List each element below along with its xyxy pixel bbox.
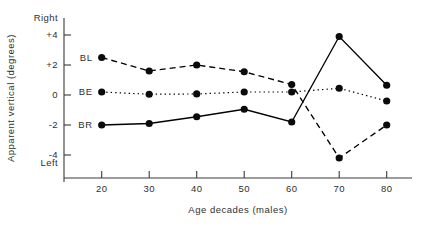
y-tick-label: 0 xyxy=(52,89,58,100)
data-point-br xyxy=(241,106,248,113)
data-point-bl xyxy=(193,61,200,68)
chart-plot-area: +4+20-2-4 20304050607080 Right Left Age … xyxy=(0,0,425,232)
x-tick-label: 40 xyxy=(191,183,203,194)
y-tick-label: +2 xyxy=(46,59,58,70)
x-axis-ticks xyxy=(102,171,387,178)
series-lines xyxy=(102,37,387,159)
x-tick-label: 20 xyxy=(96,183,108,194)
data-point-be xyxy=(336,85,343,92)
x-tick-label: 50 xyxy=(238,183,250,194)
x-tick-label: 80 xyxy=(381,183,393,194)
data-point-br xyxy=(336,33,343,40)
series-markers xyxy=(98,33,390,162)
y-axis-top-label: Right xyxy=(34,12,58,23)
data-point-be xyxy=(146,91,153,98)
y-axis-bottom-label: Left xyxy=(41,157,58,168)
x-tick-label: 60 xyxy=(286,183,298,194)
data-point-br xyxy=(98,121,105,128)
data-point-be xyxy=(98,88,105,95)
data-point-be xyxy=(383,97,390,104)
x-axis-tick-labels: 20304050607080 xyxy=(96,183,393,194)
data-point-bl xyxy=(98,54,105,61)
data-point-be xyxy=(193,90,200,97)
x-tick-label: 30 xyxy=(143,183,155,194)
y-axis-ticks xyxy=(64,35,71,155)
x-tick-label: 70 xyxy=(333,183,345,194)
data-point-bl xyxy=(383,121,390,128)
data-point-br xyxy=(193,113,200,120)
data-point-bl xyxy=(336,154,343,161)
y-axis-title: Apparent vertical (degrees) xyxy=(5,34,16,162)
series-labels: BLBEBR xyxy=(78,52,92,131)
y-tick-label: +4 xyxy=(46,29,58,40)
data-point-bl xyxy=(288,81,295,88)
data-point-br xyxy=(288,118,295,125)
data-point-be xyxy=(288,88,295,95)
data-point-bl xyxy=(146,67,153,74)
chart-figure: +4+20-2-4 20304050607080 Right Left Age … xyxy=(0,0,425,232)
data-point-be xyxy=(241,88,248,95)
y-tick-label: -2 xyxy=(49,119,58,130)
data-point-br xyxy=(383,82,390,89)
series-label-bl: BL xyxy=(80,52,93,63)
series-label-br: BR xyxy=(78,119,92,130)
series-label-be: BE xyxy=(79,86,93,97)
data-point-br xyxy=(146,120,153,127)
data-point-bl xyxy=(241,68,248,75)
y-axis-tick-labels: +4+20-2-4 xyxy=(46,29,58,160)
x-axis-title: Age decades (males) xyxy=(188,204,287,215)
